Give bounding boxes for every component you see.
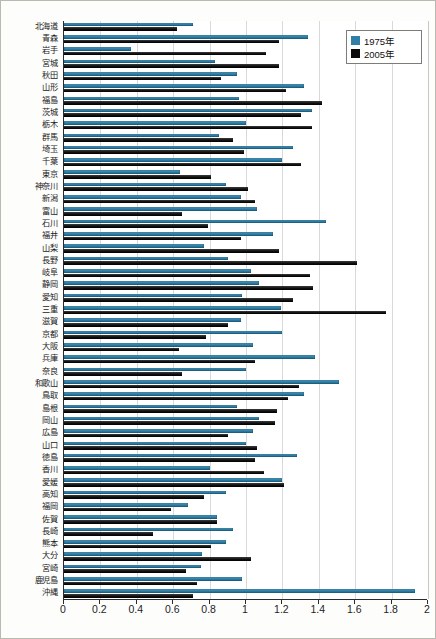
bar-1975 <box>64 491 226 495</box>
x-axis-tick-label: 1.6 <box>347 603 362 615</box>
y-axis-label: 鳥取 <box>42 392 58 400</box>
bar-row <box>64 132 427 144</box>
bar-1975 <box>64 72 237 76</box>
x-axis-tick-label: 0.2 <box>92 603 107 615</box>
bar-row <box>64 551 427 563</box>
y-axis-label: 熊本 <box>42 540 58 548</box>
bar-2005 <box>64 446 257 450</box>
bar-1975 <box>64 380 339 384</box>
bar-row <box>64 428 427 440</box>
bar-1975 <box>64 35 308 39</box>
bar-row <box>64 267 427 279</box>
bar-2005 <box>64 335 206 339</box>
bar-2005 <box>64 101 322 105</box>
y-axis-label: 岐阜 <box>42 269 58 277</box>
y-axis-label: 長崎 <box>42 528 58 536</box>
bar-row <box>64 391 427 403</box>
bar-row <box>64 588 427 600</box>
bar-1975 <box>64 257 228 261</box>
bar-1975 <box>64 552 202 556</box>
bar-row <box>64 329 427 341</box>
y-axis-label: 島根 <box>42 405 58 413</box>
bar-row <box>64 575 427 587</box>
bar-row <box>64 489 427 501</box>
bar-2005 <box>64 298 293 302</box>
y-axis-label: 石川 <box>42 220 58 228</box>
x-axis-tick-label: 1.8 <box>383 603 398 615</box>
chart-legend: 1975年 2005年 <box>346 30 422 64</box>
bar-row <box>64 193 427 205</box>
legend-label-2005: 2005年 <box>364 47 395 61</box>
y-axis-label: 福岡 <box>42 503 58 511</box>
y-axis-label: 東京 <box>42 171 58 179</box>
bar-1975 <box>64 281 259 285</box>
y-axis-label: 秋田 <box>42 72 58 80</box>
bar-1975 <box>64 170 180 174</box>
bar-2005 <box>64 249 279 253</box>
bar-2005 <box>64 261 357 265</box>
bar-1975 <box>64 294 242 298</box>
y-axis-label: 広島 <box>42 429 58 437</box>
bar-2005 <box>64 385 299 389</box>
bar-row <box>64 366 427 378</box>
bar-2005 <box>64 360 255 364</box>
y-axis-label: 沖縄 <box>42 589 58 597</box>
y-axis-label: 新潟 <box>42 195 58 203</box>
y-axis-label: 京都 <box>42 331 58 339</box>
bar-2005 <box>64 113 301 117</box>
bar-row <box>64 317 427 329</box>
bar-2005 <box>64 187 248 191</box>
bar-2005 <box>64 163 301 167</box>
bar-1975 <box>64 232 273 236</box>
legend-swatch-1975 <box>351 36 360 45</box>
bar-row <box>64 107 427 119</box>
y-axis-label: 佐賀 <box>42 516 58 524</box>
bar-1975 <box>64 355 315 359</box>
y-axis-label: 大阪 <box>42 343 58 351</box>
y-axis-label: 岡山 <box>42 417 58 425</box>
bar-2005 <box>64 471 264 475</box>
y-axis-category-labels: 北海道青森岩手宮城秋田山形福島茨城栃木群馬埼玉千葉東京神奈川新潟富山石川福井山梨… <box>1 21 61 600</box>
bar-1975 <box>64 589 415 593</box>
bar-2005 <box>64 532 153 536</box>
bar-row <box>64 157 427 169</box>
bar-2005 <box>64 150 244 154</box>
y-axis-label: 滋賀 <box>42 318 58 326</box>
bar-row <box>64 514 427 526</box>
bar-1975 <box>64 158 282 162</box>
bar-1975 <box>64 405 237 409</box>
bar-row <box>64 230 427 242</box>
bar-1975 <box>64 220 326 224</box>
bar-row <box>64 280 427 292</box>
bar-row <box>64 440 427 452</box>
bar-2005 <box>64 569 186 573</box>
x-axis-tick-label: 1.2 <box>274 603 289 615</box>
bar-1975 <box>64 368 246 372</box>
bar-2005 <box>64 508 171 512</box>
y-axis-label: 栃木 <box>42 121 58 129</box>
bar-1975 <box>64 318 241 322</box>
bar-2005 <box>64 434 228 438</box>
plot-area <box>63 21 427 600</box>
bar-2005 <box>64 557 251 561</box>
y-axis-label: 茨城 <box>42 109 58 117</box>
x-axis-tick-label: 1 <box>242 603 248 615</box>
bar-2005 <box>64 458 255 462</box>
y-axis-label: 三重 <box>42 306 58 314</box>
bar-2005 <box>64 545 211 549</box>
bar-1975 <box>64 97 239 101</box>
y-axis-label: 神奈川 <box>35 183 58 191</box>
y-axis-label: 高知 <box>42 491 58 499</box>
bar-row <box>64 181 427 193</box>
bar-1975 <box>64 109 312 113</box>
y-axis-label: 大分 <box>42 552 58 560</box>
chart-figure: 北海道青森岩手宮城秋田山形福島茨城栃木群馬埼玉千葉東京神奈川新潟富山石川福井山梨… <box>0 0 436 639</box>
bar-row <box>64 120 427 132</box>
bar-2005 <box>64 409 277 413</box>
y-axis-label: 千葉 <box>42 158 58 166</box>
bar-1975 <box>64 306 281 310</box>
x-axis-tick-label: 0.4 <box>128 603 143 615</box>
y-axis-label: 宮城 <box>42 60 58 68</box>
bar-2005 <box>64 348 179 352</box>
bar-2005 <box>64 397 288 401</box>
